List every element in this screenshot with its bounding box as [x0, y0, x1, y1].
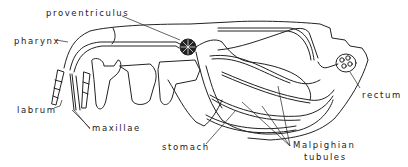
- leader-maxillae: [72, 110, 90, 129]
- label-rectum: rectum: [362, 91, 402, 100]
- label-pharynx: pharynx: [14, 37, 60, 46]
- leader-proventriculus: [122, 16, 180, 40]
- labrum-part: [52, 70, 64, 105]
- digestive-system-diagram: proventriculus pharynx labrum maxillae r…: [0, 0, 408, 167]
- label-labrum: labrum: [17, 106, 57, 115]
- midgut: [196, 40, 311, 100]
- label-malpighian: Malpighian: [293, 141, 355, 150]
- label-stomach: stomach: [162, 143, 210, 152]
- malpighian-tubule: [218, 28, 314, 60]
- label-maxillae: maxillae: [92, 124, 141, 133]
- leader-stomach: [206, 110, 236, 144]
- antenna: [82, 72, 90, 108]
- leader-rectum: [350, 72, 360, 88]
- label-tubules: tubules: [304, 153, 347, 162]
- label-proventriculus: proventriculus: [46, 9, 129, 18]
